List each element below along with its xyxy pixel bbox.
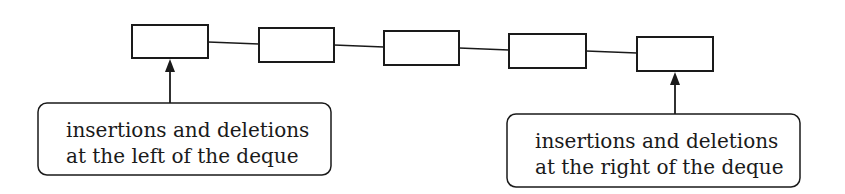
right-arrow-head-icon xyxy=(670,72,680,85)
deque-diagram: insertions and deletions at the left of … xyxy=(0,0,845,194)
deque-node-2 xyxy=(259,28,334,62)
right-callout-line-1: insertions and deletions xyxy=(535,129,778,153)
deque-node-1 xyxy=(132,25,208,58)
link-4-5 xyxy=(586,51,637,53)
right-callout: insertions and deletions at the right of… xyxy=(507,114,800,187)
right-callout-line-2: at the right of the deque xyxy=(535,155,784,179)
deque-node-5 xyxy=(637,37,713,71)
link-2-3 xyxy=(334,45,384,47)
left-arrow-head-icon xyxy=(165,59,175,72)
link-3-4 xyxy=(459,48,509,50)
link-1-2 xyxy=(208,42,259,44)
left-callout-line-2: at the left of the deque xyxy=(66,144,299,168)
left-callout: insertions and deletions at the left of … xyxy=(38,103,331,175)
deque-node-3 xyxy=(384,31,459,65)
left-callout-line-1: insertions and deletions xyxy=(66,118,309,142)
deque-node-4 xyxy=(509,34,586,68)
